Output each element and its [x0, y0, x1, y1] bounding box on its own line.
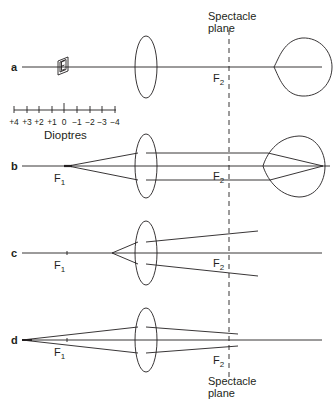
row-label-c: c	[11, 247, 17, 259]
focal-label-f2-d: F2	[213, 354, 224, 371]
row-label-a: a	[11, 61, 17, 73]
title-line-2: plane	[208, 22, 256, 34]
focal-label-f2-c: F2	[213, 257, 224, 274]
tick-label: −1	[72, 116, 82, 128]
row-label-d: d	[11, 334, 18, 346]
focal-label-f1-d: F1	[54, 346, 65, 363]
focal-label-f2-b: F2	[213, 170, 224, 187]
title-line-1: Spectacle	[208, 10, 256, 22]
row-label-b: b	[11, 160, 18, 172]
tick-label: −4	[110, 116, 120, 128]
focal-label-f2-a: F2	[213, 72, 224, 89]
dioptre-scale	[14, 103, 116, 113]
optics-diagram	[0, 0, 334, 405]
tick-label: −2	[85, 116, 95, 128]
tick-label: +2	[34, 116, 44, 128]
dioptre-tick-labels: +4 +3 +2 +1 0 −1 −2 −3 −4	[0, 116, 130, 128]
eye-b	[263, 136, 325, 197]
focal-label-f1-c: F1	[54, 259, 65, 276]
caption-line-1: Spectacle	[208, 375, 256, 387]
spectacle-plane-title: Spectacle plane	[208, 10, 256, 34]
e-target-icon	[58, 57, 68, 75]
tick-label: −3	[97, 116, 107, 128]
tick-label: +4	[9, 116, 19, 128]
caption-line-2: plane	[208, 387, 256, 399]
tick-label: +3	[22, 116, 32, 128]
tick-label: +1	[47, 116, 57, 128]
spectacle-plane-caption: Spectacle plane	[208, 375, 256, 399]
tick-label: 0	[62, 116, 67, 128]
focal-label-f1-b: F1	[54, 172, 65, 189]
scale-unit-label: Dioptres	[44, 129, 87, 141]
